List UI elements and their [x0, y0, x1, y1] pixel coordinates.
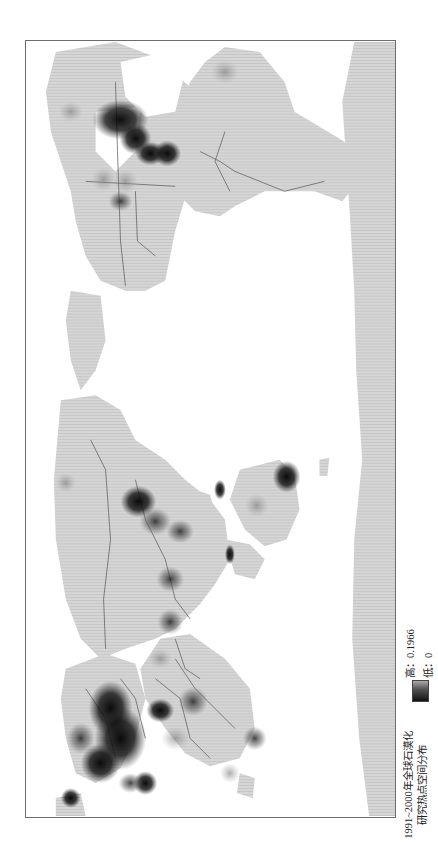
alaska: [66, 291, 106, 390]
world-map: [26, 41, 395, 817]
new-zealand: [319, 458, 329, 476]
map-frame: [25, 40, 396, 818]
legend-low-label: 低：0: [420, 653, 435, 678]
legend-title: 1991~2000年全球石漠化 研究热点空间分布: [402, 720, 430, 850]
madagascar: [237, 773, 255, 798]
legend: 1991~2000年全球石漠化 研究热点空间分布 高：0.1966 低：0: [400, 600, 438, 850]
legend-title-line2: 研究热点空间分布: [416, 720, 430, 850]
legend-gradient-swatch: [412, 680, 429, 702]
legend-high-label: 高：0.1966: [402, 629, 417, 678]
legend-rotated-block: 1991~2000年全球石漠化 研究热点空间分布 高：0.1966 低：0: [400, 600, 438, 850]
legend-title-line1: 1991~2000年全球石漠化: [402, 720, 416, 850]
